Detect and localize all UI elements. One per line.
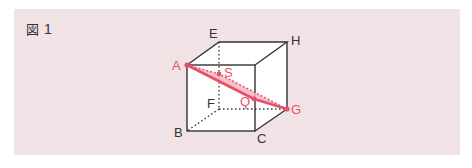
label-e: E: [209, 26, 218, 41]
label-g: G: [291, 102, 301, 117]
label-b: B: [174, 125, 183, 140]
label-a: A: [172, 58, 181, 73]
label-h: H: [291, 33, 300, 48]
label-q: Q: [240, 94, 250, 109]
label-c: C: [257, 131, 266, 146]
cube-diagram: A S Q G E H F B C: [0, 0, 472, 168]
label-s: S: [224, 65, 233, 80]
label-f: F: [207, 96, 215, 111]
